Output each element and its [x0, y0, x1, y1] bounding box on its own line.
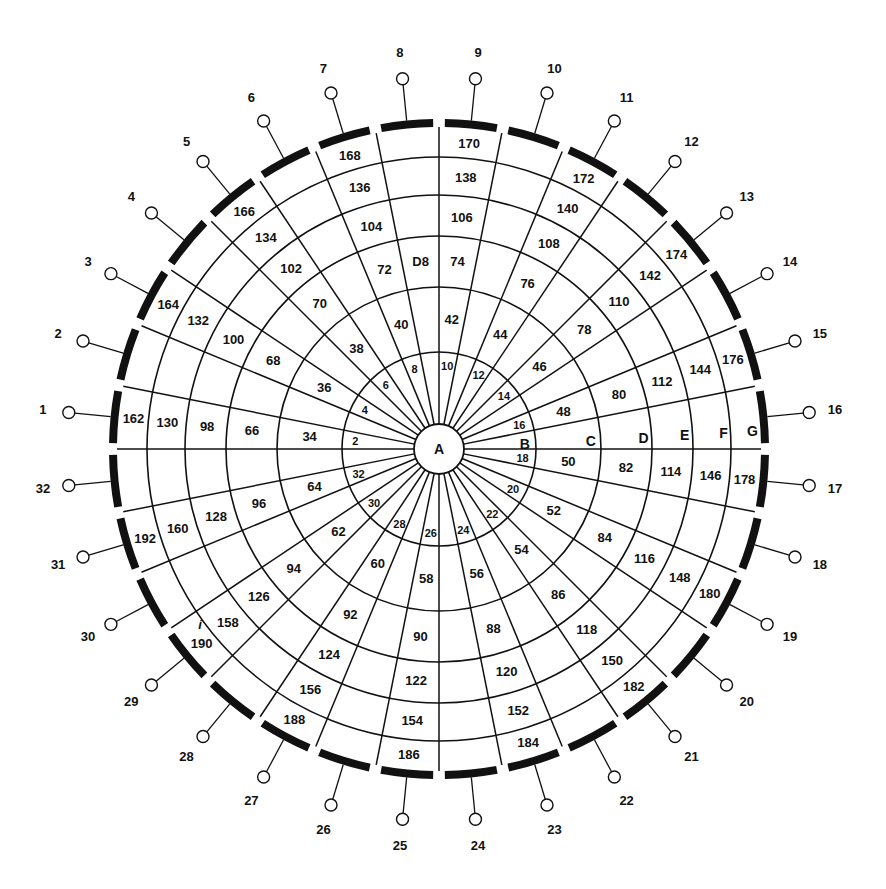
pin-connector-icon [469, 73, 481, 85]
center-hub: A [414, 424, 464, 474]
cell-value: 62 [331, 524, 345, 539]
cell-value: 186 [398, 747, 420, 762]
cell-value: 34 [302, 429, 317, 444]
pin-lead [403, 777, 407, 813]
terminal-bar-30 [140, 579, 165, 625]
terminal-bar-14 [713, 273, 738, 319]
cell-value: 132 [187, 313, 209, 328]
pin-connector-icon [77, 551, 89, 563]
cell-value: 152 [507, 703, 529, 718]
spoke [453, 470, 618, 717]
cell-value: 32 [352, 468, 364, 480]
cell-value: 124 [318, 647, 340, 662]
cell-value: 150 [601, 653, 623, 668]
pin-connector-icon [325, 799, 337, 811]
pin-label-18: 18 [813, 557, 827, 572]
terminal-bar-2 [120, 330, 135, 380]
pin-label-32: 32 [36, 481, 50, 496]
pin-label-10: 10 [547, 61, 561, 76]
ring-letter-d: D [639, 430, 649, 446]
cell-value: 46 [532, 359, 546, 374]
cell-value: 96 [252, 496, 266, 511]
terminal-bar-25 [381, 770, 433, 775]
spoke [457, 221, 667, 431]
cell-value: 110 [609, 294, 630, 309]
pin-lead [755, 545, 789, 555]
cell-value: 70 [312, 296, 326, 311]
pin-connector-icon [761, 268, 773, 280]
cell-value: 40 [394, 317, 408, 332]
cell-value: 72 [377, 262, 391, 277]
cell-value: 50 [561, 454, 575, 469]
terminal-bar-16 [760, 391, 765, 443]
pin-connector-icon [325, 87, 337, 99]
cell-value: 130 [156, 415, 178, 430]
cell-value: 20 [507, 483, 519, 495]
cell-value: 120 [496, 664, 518, 679]
pin-connector-icon [803, 407, 815, 419]
diagram-canvas: 1234567891011121314151617181920212223242… [0, 0, 886, 889]
cell-value: 26 [425, 527, 437, 539]
cell-value: 88 [486, 621, 500, 636]
pin-lead [730, 276, 762, 293]
pin-label-13: 13 [739, 189, 753, 204]
pin-connector-icon [669, 731, 681, 743]
cell-value: 48 [556, 404, 570, 419]
pin-label-23: 23 [547, 822, 561, 837]
pin-label-27: 27 [244, 793, 258, 808]
cell-value: 192 [134, 531, 156, 546]
terminal-bar-20 [674, 635, 707, 675]
pin-lead [694, 217, 722, 240]
spoke [260, 181, 425, 428]
pin-label-21: 21 [684, 749, 698, 764]
cell-value: 190 [191, 636, 213, 651]
cell-value: 136 [349, 180, 371, 195]
cell-value: 144 [689, 362, 711, 377]
pin-lead [266, 740, 283, 772]
cell-value: 54 [514, 542, 529, 557]
cell-value: 122 [405, 673, 427, 688]
pin-label-19: 19 [783, 629, 797, 644]
cell-value: 128 [205, 509, 227, 524]
cell-value: 36 [317, 380, 331, 395]
pin-label-20: 20 [739, 694, 753, 709]
terminal-bar-26 [320, 752, 370, 767]
pin-lead [75, 413, 111, 417]
pin-lead [648, 704, 671, 732]
spoke [171, 463, 418, 628]
terminal-bar-6 [263, 150, 309, 175]
cell-value: 162 [123, 411, 145, 426]
pin-lead [266, 126, 283, 158]
pin-lead [207, 704, 230, 732]
cell-value: 146 [700, 468, 722, 483]
pin-connector-icon [721, 207, 733, 219]
pin-connector-icon [789, 551, 801, 563]
spoke [211, 467, 421, 677]
cell-value: 108 [538, 236, 560, 251]
cell-value: 6 [383, 379, 389, 391]
pin-label-8: 8 [396, 45, 403, 60]
pin-lead [595, 740, 612, 772]
cell-value: 166 [233, 204, 255, 219]
spoke [460, 270, 707, 435]
cell-value: 12 [472, 369, 484, 381]
cell-value: 28 [393, 518, 405, 530]
ring-letter-b: B [520, 436, 530, 452]
pin-label-28: 28 [179, 749, 193, 764]
pin-lead [89, 545, 123, 555]
terminal-bar-23 [508, 752, 558, 767]
pin-connector-icon [721, 679, 733, 691]
pin-connector-icon [258, 115, 270, 127]
pin-lead [471, 777, 475, 813]
pin-label-31: 31 [51, 557, 65, 572]
cell-value: 104 [361, 219, 383, 234]
pin-connector-icon [803, 479, 815, 491]
cell-value: 8 [412, 363, 418, 375]
terminal-bar-22 [569, 723, 615, 748]
terminal-bar-31 [120, 518, 135, 568]
center-label: A [434, 441, 444, 457]
pin-connector-icon [258, 771, 270, 783]
ring-letter-g: G [747, 423, 758, 439]
pin-label-12: 12 [684, 134, 698, 149]
terminal-bar-28 [213, 684, 253, 717]
